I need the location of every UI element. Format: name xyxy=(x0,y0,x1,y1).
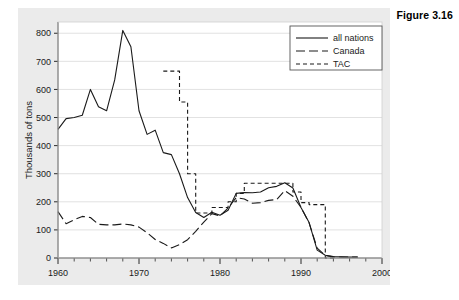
x-tick-label-1960: 1960 xyxy=(48,268,68,278)
y-tick-label-800: 800 xyxy=(36,28,51,38)
y-tick-label-700: 700 xyxy=(36,57,51,67)
x-tick-label-2000: 2000 xyxy=(372,268,390,278)
y-tick-label-500: 500 xyxy=(36,113,51,123)
legend-label-canada: Canada xyxy=(333,46,365,56)
figure-container: Figure 3.16 0100200300400500600700800196… xyxy=(0,0,459,300)
legend-label-tac: TAC xyxy=(333,59,351,69)
figure-caption: Figure 3.16 xyxy=(396,9,453,21)
y-tick-label-100: 100 xyxy=(36,225,51,235)
legend-label-all-nations: all nations xyxy=(333,33,374,43)
y-tick-label-300: 300 xyxy=(36,169,51,179)
x-tick-label-1990: 1990 xyxy=(291,268,311,278)
x-tick-label-1980: 1980 xyxy=(210,268,230,278)
y-tick-label-200: 200 xyxy=(36,197,51,207)
fisheries-landings-line-chart: 0100200300400500600700800196019701980199… xyxy=(18,8,390,285)
y-axis-title: Thousands of tons xyxy=(23,101,34,179)
y-tick-label-400: 400 xyxy=(36,141,51,151)
x-tick-label-1970: 1970 xyxy=(129,268,149,278)
y-tick-label-0: 0 xyxy=(46,253,51,263)
y-tick-label-600: 600 xyxy=(36,85,51,95)
